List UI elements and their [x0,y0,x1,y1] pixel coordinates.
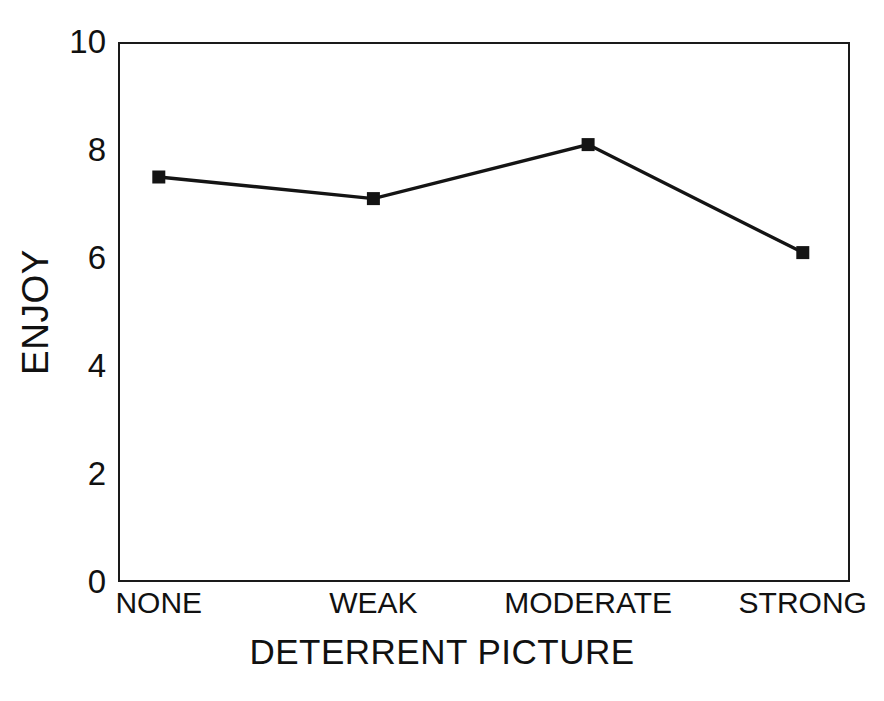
x-tick-label: MODERATE [504,588,672,618]
x-tick-label: NONE [115,588,202,618]
plot-area [118,42,850,582]
y-tick-label: 2 [6,457,106,490]
y-axis-title: ENJOY [14,42,58,582]
y-tick-label: 0 [6,565,106,598]
chart-figure: ENJOY 0246810 NONEWEAKMODERATESTRONG DET… [0,0,884,701]
x-axis-title: DETERRENT PICTURE [0,632,884,672]
x-tick-label: STRONG [739,588,867,618]
y-tick-label: 10 [6,25,106,58]
x-tick-label: WEAK [329,588,417,618]
y-tick-label: 4 [6,349,106,382]
y-tick-label: 6 [6,241,106,274]
y-tick-label: 8 [6,133,106,166]
